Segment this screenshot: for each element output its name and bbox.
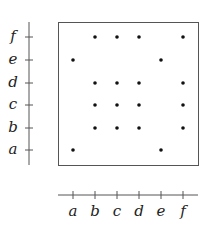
point-c-c xyxy=(115,103,119,107)
x-tick-label-d: d xyxy=(134,202,144,220)
x-tick-label-a: a xyxy=(69,202,78,220)
point-d-c xyxy=(137,103,141,107)
y-tick-label-a: a xyxy=(9,140,18,158)
point-f-f xyxy=(181,35,185,39)
y-axis: abcdef xyxy=(8,22,33,165)
point-f-d xyxy=(181,81,185,85)
point-e-e xyxy=(159,58,163,62)
point-c-d xyxy=(115,81,119,85)
point-c-f xyxy=(115,35,119,39)
x-tick-label-f: f xyxy=(179,202,188,220)
point-f-b xyxy=(181,126,185,130)
relation-diagram: abcdef abcdef xyxy=(0,0,209,227)
point-b-d xyxy=(93,81,97,85)
point-f-c xyxy=(181,103,185,107)
x-tick-label-c: c xyxy=(113,202,122,220)
y-tick-label-d: d xyxy=(8,73,18,91)
point-b-f xyxy=(93,35,97,39)
relation-points xyxy=(71,35,185,152)
y-tick-label-e: e xyxy=(9,50,18,68)
y-tick-label-f: f xyxy=(9,27,18,45)
y-tick-label-c: c xyxy=(9,95,18,113)
point-a-e xyxy=(71,58,75,62)
point-d-d xyxy=(137,81,141,85)
point-d-b xyxy=(137,126,141,130)
x-tick-label-b: b xyxy=(90,202,100,220)
point-c-b xyxy=(115,126,119,130)
point-b-b xyxy=(93,126,97,130)
x-tick-label-e: e xyxy=(157,202,166,220)
point-a-a xyxy=(71,148,75,152)
y-tick-label-b: b xyxy=(8,118,18,136)
x-axis: abcdef xyxy=(58,191,198,220)
point-d-f xyxy=(137,35,141,39)
matrix-frame xyxy=(59,23,199,166)
point-e-a xyxy=(159,148,163,152)
point-b-c xyxy=(93,103,97,107)
